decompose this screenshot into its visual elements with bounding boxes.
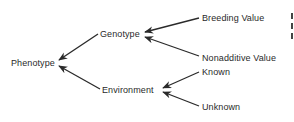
node-known: Known <box>202 67 230 77</box>
arrow-nonadditive-to-genotype <box>145 37 199 56</box>
node-environment: Environment <box>102 85 154 95</box>
node-unknown: Unknown <box>202 102 240 112</box>
node-nonadditive-value: Nonadditive Value <box>202 53 276 63</box>
arrow-known-to-environment <box>163 72 199 88</box>
edge-mark <box>291 13 293 19</box>
edge-mark <box>291 23 293 29</box>
arrow-unknown-to-environment <box>163 92 199 106</box>
arrow-breeding-to-genotype <box>145 18 199 32</box>
arrow-environment-to-phenotype <box>59 66 100 89</box>
edge-mark <box>291 33 293 39</box>
node-breeding-value: Breeding Value <box>202 13 264 23</box>
arrow-genotype-to-phenotype <box>59 34 98 60</box>
node-genotype: Genotype <box>100 29 140 39</box>
node-phenotype: Phenotype <box>11 58 55 68</box>
